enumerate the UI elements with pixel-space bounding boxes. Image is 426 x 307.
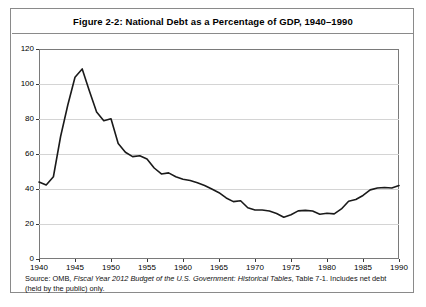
y-tick-label: 80 <box>25 115 34 123</box>
x-tick-label: 1975 <box>282 264 300 272</box>
x-tick-mark <box>255 259 256 262</box>
chart-plot-area: 020406080100120 194019451950195519601965… <box>39 49 399 259</box>
y-tick-label: 0 <box>30 255 34 263</box>
source-note: Source: OMB, Fiscal Year 2012 Budget of … <box>25 274 403 294</box>
x-tick-label: 1985 <box>354 264 372 272</box>
y-tick-label: 100 <box>21 80 34 88</box>
source-title-italic: Fiscal Year 2012 Budget of the U.S. Gove… <box>73 274 291 283</box>
x-tick-mark <box>327 259 328 262</box>
figure-title: Figure 2-2: National Debt as a Percentag… <box>11 16 415 27</box>
x-tick-mark <box>111 259 112 262</box>
x-tick-mark <box>291 259 292 262</box>
figure-card: Figure 2-2: National Debt as a Percentag… <box>10 8 414 293</box>
x-tick-mark <box>147 259 148 262</box>
x-tick-mark <box>399 259 400 262</box>
title-divider <box>12 33 414 34</box>
x-tick-label: 1970 <box>246 264 264 272</box>
x-tick-label: 1965 <box>210 264 228 272</box>
y-tick-label: 60 <box>25 150 34 158</box>
x-tick-label: 1980 <box>318 264 336 272</box>
x-tick-mark <box>39 259 40 262</box>
source-lead: Source: OMB, <box>25 274 73 283</box>
debt-line-series <box>39 49 399 259</box>
x-tick-label: 1955 <box>138 264 156 272</box>
x-tick-label: 1990 <box>390 264 408 272</box>
x-tick-mark <box>219 259 220 262</box>
x-tick-mark <box>75 259 76 262</box>
x-tick-label: 1940 <box>30 264 48 272</box>
x-tick-mark <box>183 259 184 262</box>
x-tick-label: 1960 <box>174 264 192 272</box>
y-tick-label: 40 <box>25 185 34 193</box>
y-tick-label: 120 <box>21 45 34 53</box>
y-tick-label: 20 <box>25 220 34 228</box>
x-tick-mark <box>363 259 364 262</box>
x-tick-label: 1950 <box>102 264 120 272</box>
x-tick-label: 1945 <box>66 264 84 272</box>
